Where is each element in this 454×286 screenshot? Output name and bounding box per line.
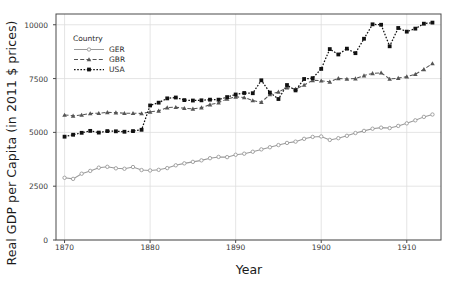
data-point-marker	[200, 98, 204, 102]
data-point-marker	[123, 167, 126, 170]
legend-label: GER	[109, 45, 125, 54]
data-point-marker	[97, 166, 100, 169]
data-point-marker	[63, 176, 66, 179]
data-point-marker	[71, 177, 74, 180]
data-point-marker	[251, 91, 255, 95]
data-point-marker	[80, 131, 84, 135]
plot-area: CountryGERGBRUSA	[0, 0, 454, 286]
data-point-marker	[114, 167, 117, 170]
data-point-marker	[371, 127, 374, 130]
data-point-marker	[123, 130, 127, 134]
data-point-marker	[405, 122, 408, 125]
data-point-marker	[431, 21, 435, 25]
data-point-marker	[191, 160, 194, 163]
data-point-marker	[388, 44, 392, 48]
data-point-marker	[183, 162, 186, 165]
data-point-marker	[277, 97, 281, 101]
data-point-marker	[191, 99, 195, 103]
data-point-marker	[106, 165, 109, 168]
data-point-marker	[97, 131, 101, 135]
data-point-marker	[294, 140, 297, 143]
data-point-marker	[131, 129, 135, 133]
data-point-marker	[166, 166, 169, 169]
data-point-marker	[379, 126, 382, 129]
data-point-marker	[294, 89, 298, 93]
data-point-marker	[217, 98, 221, 102]
chart-container: Real GDP per Capita (in 2011 $ prices) Y…	[0, 0, 454, 286]
data-point-marker	[208, 98, 212, 102]
data-point-marker	[405, 30, 409, 34]
data-point-marker	[225, 155, 228, 158]
data-point-marker	[234, 93, 238, 97]
data-point-marker	[285, 141, 288, 144]
data-point-marker	[251, 150, 254, 153]
data-point-marker	[260, 148, 263, 151]
data-point-marker	[311, 135, 314, 138]
data-point-marker	[80, 172, 83, 175]
data-point-marker	[200, 159, 203, 162]
data-point-marker	[63, 135, 67, 139]
data-point-marker	[302, 137, 305, 140]
data-point-marker	[422, 22, 426, 26]
data-point-marker	[345, 134, 348, 137]
data-point-marker	[268, 91, 272, 95]
data-point-marker	[362, 129, 365, 132]
data-point-marker	[87, 48, 90, 51]
data-point-marker	[414, 119, 417, 122]
data-point-marker	[148, 104, 152, 108]
data-point-marker	[302, 77, 306, 81]
data-point-marker	[354, 51, 358, 55]
data-point-marker	[422, 115, 425, 118]
legend-label: USA	[109, 65, 125, 74]
data-point-marker	[148, 169, 151, 172]
data-point-marker	[336, 53, 340, 57]
data-point-marker	[362, 37, 366, 41]
data-point-marker	[388, 126, 391, 129]
data-point-marker	[89, 169, 92, 172]
data-point-marker	[396, 26, 400, 30]
data-point-marker	[319, 67, 323, 71]
data-point-marker	[234, 153, 237, 156]
data-point-marker	[87, 68, 91, 72]
data-point-marker	[140, 168, 143, 171]
data-point-marker	[259, 78, 263, 82]
legend-label: GBR	[109, 55, 125, 64]
data-point-marker	[413, 27, 417, 31]
data-point-marker	[157, 168, 160, 171]
data-point-marker	[165, 96, 169, 100]
data-point-marker	[285, 83, 289, 87]
data-point-marker	[328, 138, 331, 141]
data-point-marker	[397, 124, 400, 127]
data-point-marker	[114, 129, 118, 133]
data-point-marker	[320, 135, 323, 138]
data-point-marker	[345, 47, 349, 51]
data-point-marker	[243, 152, 246, 155]
data-point-marker	[174, 164, 177, 167]
data-point-marker	[337, 136, 340, 139]
data-point-marker	[174, 96, 178, 100]
legend-title: Country	[73, 34, 103, 43]
data-point-marker	[311, 76, 315, 80]
data-point-marker	[225, 95, 229, 99]
data-point-marker	[268, 146, 271, 149]
data-point-marker	[71, 133, 75, 137]
data-point-marker	[379, 23, 383, 27]
data-point-marker	[140, 128, 144, 132]
data-point-marker	[157, 101, 161, 105]
data-point-marker	[431, 113, 434, 116]
data-point-marker	[131, 165, 134, 168]
data-point-marker	[88, 129, 92, 133]
data-point-marker	[182, 98, 186, 102]
data-point-marker	[217, 155, 220, 158]
data-point-marker	[208, 157, 211, 160]
data-point-marker	[277, 143, 280, 146]
data-point-marker	[354, 131, 357, 134]
data-point-marker	[371, 22, 375, 26]
data-point-marker	[105, 129, 109, 133]
data-point-marker	[328, 47, 332, 51]
data-point-marker	[242, 91, 246, 95]
